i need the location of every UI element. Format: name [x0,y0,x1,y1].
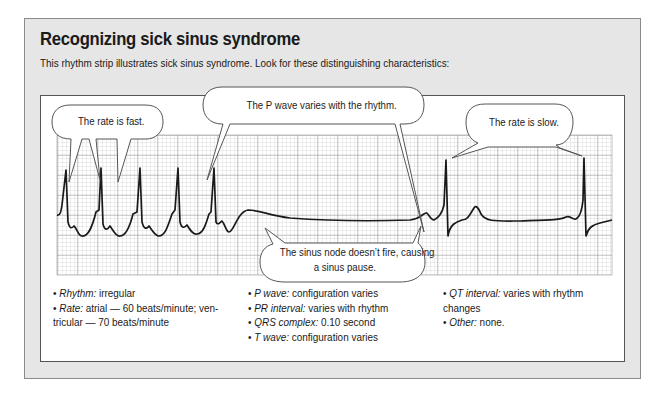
characteristic-qt-interval-continued: changes [443,301,618,316]
characteristic-rhythm: • Rhythm: irregular [53,286,228,301]
characteristics-column-3: • QT interval: varies with rhythm change… [443,286,618,330]
characteristic-rate: • Rate: atrial — 60 beats/minute; ven- [53,301,228,316]
callout-pause-text-2: a sinus pause. [314,261,376,273]
callout-pause-text-1: The sinus node doesn’t fire, causing [280,246,435,258]
characteristic-pr-interval: • PR interval: varies with rhythm [248,301,423,316]
characteristic-qt-interval: • QT interval: varies with rhythm [443,286,618,301]
characteristic-other: • Other: none. [443,315,618,330]
characteristic-p-wave: • P wave: configuration varies [248,286,423,301]
characteristic-qrs-complex: • QRS complex: 0.10 second [248,315,423,330]
characteristics-column-1: • Rhythm: irregular • Rate: atrial — 60 … [53,286,228,330]
characteristics-column-2: • P wave: configuration varies • PR inte… [248,286,423,344]
characteristic-t-wave: • T wave: configuration varies [248,330,423,345]
characteristic-rate-continued: tricular — 70 beats/minute [53,315,228,330]
callout-fast-text: The rate is fast. [78,115,145,127]
callout-pwave-text: The P wave varies with the rhythm. [247,99,397,111]
callout-slow-text: The rate is slow. [489,116,559,128]
